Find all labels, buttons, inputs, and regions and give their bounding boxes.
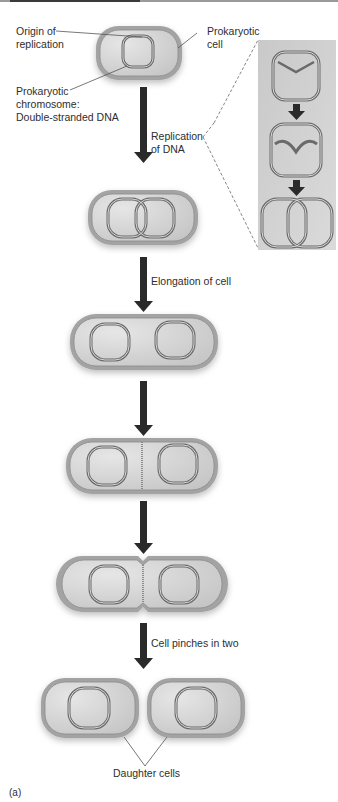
label-prokaryotic-chromosome: Prokaryotic chromosome: Double-stranded … [16,85,119,124]
label-origin-of-replication: Origin of replication [16,25,64,51]
label-cell-pinches-in-two: Cell pinches in two [151,637,239,650]
label-replication-of-dna: Replication of DNA [151,130,203,156]
panel-label: (a) [9,786,21,799]
label-daughter-cells: Daughter cells [113,767,180,780]
arrow-down-icon [134,501,153,554]
cell-step-1 [96,26,182,80]
arrow-down-icon [134,381,153,436]
label-prokaryotic-cell: Prokaryotic cell [207,25,260,51]
label-elongation-of-cell: Elongation of cell [151,275,231,288]
replication-inset [258,40,336,250]
